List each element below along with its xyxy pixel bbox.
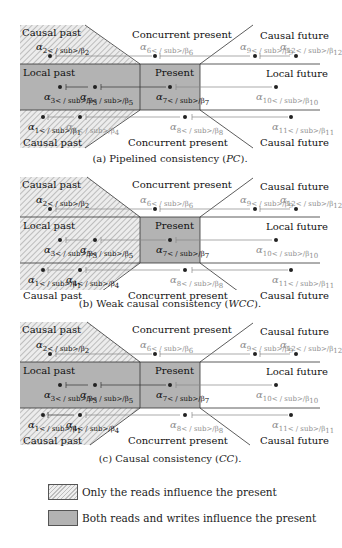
label-a4: α4< / sub>/β4: [66, 420, 119, 435]
label-a6: α6< / sub>/β6: [140, 340, 193, 355]
label-a5: α5< / sub>/β5: [80, 390, 133, 405]
hatched-swatch-icon: [48, 484, 78, 500]
label-a11: α11< / sub>/β11: [272, 122, 334, 137]
region-local-future: Local future: [266, 69, 328, 79]
legend-hatched-label: Only the reads influence the present: [82, 486, 277, 498]
label-a5: α5< / sub>/β5: [80, 245, 133, 260]
label-a8: α8< / sub>/β8: [170, 122, 223, 137]
caption-c-text: (c) Causal consistency (: [99, 453, 219, 464]
legend-item-hatched: Only the reads influence the present: [48, 482, 316, 502]
label-a10: α10< / sub>/β10: [256, 92, 318, 107]
diagram-causal-consistency: Causal past Concurrent present Causal fu…: [0, 285, 340, 455]
region-concurrent-present-bottom: Concurrent present: [128, 436, 228, 446]
solid-swatch-icon: [48, 510, 78, 526]
label-a7: α7< / sub>/β7: [156, 245, 209, 260]
region-causal-past-top: Causal past: [22, 180, 81, 190]
label-a12: α12< / sub>/β12: [280, 340, 342, 355]
region-causal-future-top: Causal future: [260, 31, 329, 41]
label-a10: α10< / sub>/β10: [256, 390, 318, 405]
label-a7: α7< / sub>/β7: [156, 390, 209, 405]
label-a10: α10< / sub>/β10: [256, 245, 318, 260]
label-a2: α2< / sub>/β2: [36, 195, 89, 210]
region-causal-past-top: Causal past: [22, 325, 81, 335]
legend: Only the reads influence the present Bot…: [48, 482, 316, 534]
region-present: Present: [155, 221, 194, 231]
legend-item-solid: Both reads and writes influence the pres…: [48, 508, 316, 528]
region-local-future: Local future: [266, 222, 328, 232]
caption-c-abbr: CC: [219, 453, 234, 464]
legend-solid-label: Both reads and writes influence the pres…: [82, 512, 316, 524]
label-a12: α12< / sub>/β12: [280, 195, 342, 210]
region-causal-past-bottom: Causal past: [23, 436, 82, 446]
region-causal-future-top: Causal future: [260, 182, 329, 192]
label-a7: α7< / sub>/β7: [156, 92, 209, 107]
label-a6: α6< / sub>/β6: [140, 195, 193, 210]
region-concurrent-present-top: Concurrent present: [132, 180, 232, 190]
region-causal-future-top: Causal future: [260, 327, 329, 337]
label-a11: α11< / sub>/β11: [272, 420, 334, 435]
region-concurrent-present-top: Concurrent present: [132, 325, 232, 335]
region-local-past: Local past: [23, 366, 75, 376]
label-a5: α5< / sub>/β5: [80, 92, 133, 107]
label-a2: α2< / sub>/β2: [36, 42, 89, 57]
region-causal-future-bottom: Causal future: [260, 436, 329, 446]
label-a6: α6< / sub>/β6: [140, 42, 193, 57]
region-local-past: Local past: [23, 221, 75, 231]
label-a8: α8< / sub>/β8: [170, 420, 223, 435]
region-local-past: Local past: [23, 68, 75, 78]
label-a4: α4< / sub>/β4: [66, 122, 119, 137]
region-present: Present: [155, 68, 194, 78]
caption-c: (c) Causal consistency (CC).: [0, 453, 340, 464]
region-local-future: Local future: [266, 367, 328, 377]
region-causal-past-top: Causal past: [22, 28, 81, 38]
caption-c-suffix: ).: [234, 453, 241, 464]
label-a12: α12< / sub>/β12: [280, 42, 342, 57]
label-a2: α2< / sub>/β2: [36, 340, 89, 355]
diagram-b-shapes: [0, 140, 340, 290]
region-concurrent-present-top: Concurrent present: [132, 30, 232, 40]
region-present: Present: [155, 366, 194, 376]
